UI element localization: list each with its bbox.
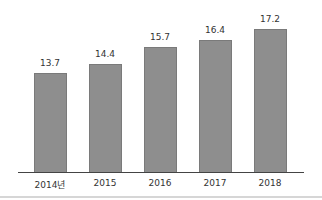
data-label-2016: 15.7 [135, 32, 185, 42]
data-label-2015: 14.4 [80, 49, 130, 59]
bar-2014 [34, 73, 67, 173]
x-tick-label-2014: 2014년 [20, 178, 80, 191]
bar-2017 [199, 40, 232, 173]
data-label-2014: 13.7 [25, 58, 75, 68]
bottom-divider [0, 196, 322, 198]
data-label-2018: 17.2 [245, 14, 295, 24]
bar-2015 [89, 64, 122, 173]
data-label-2017: 16.4 [190, 25, 240, 35]
bar-2018 [254, 29, 287, 173]
bar-chart: 13.7 14.4 15.7 16.4 17.2 2014년 2015 2016… [0, 0, 322, 200]
x-tick-label-2018: 2018 [240, 178, 300, 188]
bar-2016 [144, 47, 177, 173]
x-axis-line [18, 172, 304, 173]
x-tick-label-2015: 2015 [75, 178, 135, 188]
x-tick-label-2017: 2017 [185, 178, 245, 188]
x-tick-label-2016: 2016 [130, 178, 190, 188]
